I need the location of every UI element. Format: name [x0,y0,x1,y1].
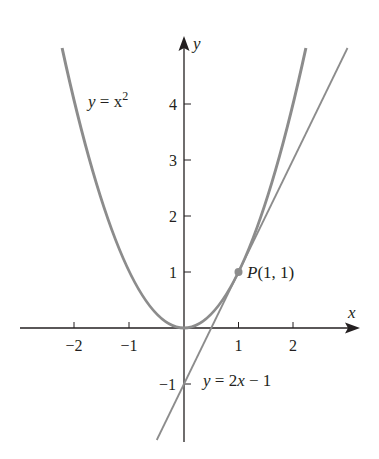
y-ticks [184,104,191,384]
y-tick-labels: −1 1 2 3 4 [159,96,177,393]
x-tick-labels: −2 −1 1 2 [65,337,297,354]
y-axis-label: y [191,34,201,53]
x-tick-label: −2 [65,337,82,354]
x-tick-label: −1 [120,337,137,354]
y-tick-label: −1 [159,376,176,393]
x-tick-label: 2 [289,337,297,354]
y-tick-label: 2 [169,208,177,225]
point-p-marker [235,268,243,276]
chart-canvas: −2 −1 1 2 −1 1 2 3 4 y x y = x2 P(1, 1) … [0,0,379,459]
x-axis-label: x [347,303,356,322]
y-tick-label: 3 [169,152,177,169]
y-tick-label: 4 [169,96,177,113]
x-tick-label: 1 [235,337,243,354]
parabola-label: y = x2 [86,89,128,111]
point-p-label: P(1, 1) [246,263,294,282]
tangent-label: y = 2x − 1 [201,371,271,390]
y-tick-label: 1 [169,264,177,281]
